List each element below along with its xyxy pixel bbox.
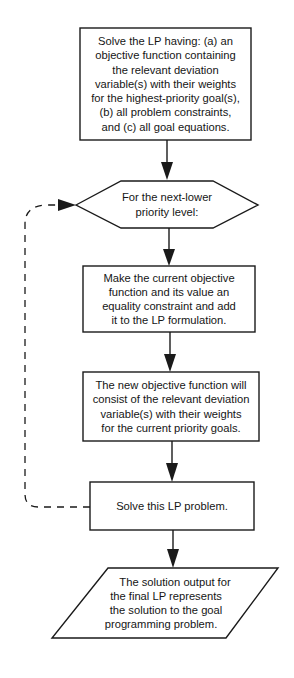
text-line: and (c) all goal equations. <box>101 120 229 134</box>
arrow-initial-to-priority <box>161 140 173 180</box>
text-line: For the next-lower <box>122 190 212 204</box>
text-line: it to the LP formulation. <box>112 313 227 327</box>
add-constraint-text: Make the current objective function and … <box>83 266 255 332</box>
dashed-feedback-loop <box>25 199 90 507</box>
text-line: variable(s) with their weights <box>95 77 236 91</box>
text-line: for the highest-priority goal(s), <box>91 91 240 105</box>
text-line: objective function containing <box>95 48 236 62</box>
arrow-constraint-to-objective <box>164 332 176 372</box>
text-line: for the current priority goals. <box>101 421 240 435</box>
text-line: The new objective function will <box>95 378 246 392</box>
text-line: the solution to the goal <box>110 603 223 617</box>
arrow-objective-to-solve <box>166 441 178 482</box>
text-line: Make the current objective <box>103 271 234 285</box>
text-line: equality constraint and add <box>102 299 236 313</box>
text-line: the final LP represents <box>110 589 222 603</box>
text-line: (b) all problem constraints, <box>100 105 232 119</box>
initial-solve-text: Solve the LP having: (a) an objective fu… <box>80 28 251 140</box>
next-priority-text: For the next-lower priority level: <box>100 181 234 228</box>
arrow-solve-to-output <box>167 530 179 568</box>
text-line: function and its value an <box>109 285 230 299</box>
text-line: programming problem. <box>105 617 228 631</box>
text-line: the relevant deviation <box>112 63 218 77</box>
text-line: The solution output for <box>101 575 230 589</box>
text-line: consist of the relevant deviation <box>93 392 250 406</box>
text-line: Solve the LP having: (a) an <box>98 34 233 48</box>
final-output-text: The solution output for the final LP rep… <box>92 570 240 636</box>
arrow-priority-to-constraint <box>163 228 175 266</box>
text-line: variable(s) with their weights <box>100 407 241 421</box>
new-objective-text: The new objective function will consist … <box>83 372 259 441</box>
text-line: priority level: <box>136 205 199 219</box>
text-line: Solve this LP problem. <box>116 499 228 513</box>
solve-lp-text: Solve this LP problem. <box>90 482 254 530</box>
